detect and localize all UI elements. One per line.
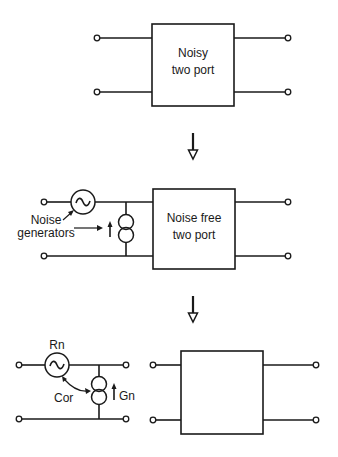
terminal-icon xyxy=(285,89,291,95)
box-label-line2: two port xyxy=(172,63,215,77)
terminal-icon xyxy=(150,417,156,423)
stage-noisy-two-port: Noisy two port xyxy=(94,24,291,106)
terminal-icon xyxy=(94,35,100,41)
down-arrow-icon xyxy=(189,296,198,322)
terminal-icon xyxy=(123,362,129,368)
terminal-icon xyxy=(41,199,47,205)
stage-noise-free-two-port: Noise free two port Noise generators xyxy=(17,189,290,269)
terminal-icon xyxy=(16,416,22,422)
terminal-icon xyxy=(123,416,129,422)
voltage-noise-source-icon xyxy=(45,353,69,377)
box-label-line1: Noisy xyxy=(178,46,208,60)
box-label-line1: Noise free xyxy=(167,211,222,225)
current-noise-source-icon xyxy=(119,215,134,243)
terminal-icon xyxy=(150,362,156,368)
current-direction-arrow-icon xyxy=(112,383,117,400)
terminal-icon xyxy=(16,362,22,368)
annotation-label-line1: Noise xyxy=(31,213,62,227)
box-label-line2: two port xyxy=(173,228,216,242)
terminal-icon xyxy=(285,253,291,259)
down-arrow-icon xyxy=(189,133,198,159)
noiseless-two-port-box xyxy=(181,351,263,434)
cor-label: Cor xyxy=(54,391,73,405)
terminal-icon xyxy=(285,199,291,205)
stage-noiseless-two-port xyxy=(150,351,319,434)
current-noise-source-icon xyxy=(92,377,107,405)
terminal-icon xyxy=(41,253,47,259)
current-direction-arrow-icon xyxy=(108,221,113,237)
gn-label: Gn xyxy=(119,389,135,403)
terminal-icon xyxy=(313,362,319,368)
voltage-noise-source-icon xyxy=(71,190,95,214)
stage-noise-network: Rn Gn Cor xyxy=(16,338,135,422)
terminal-icon xyxy=(313,417,319,423)
rn-label: Rn xyxy=(49,338,64,352)
annotation-label-line2: generators xyxy=(17,226,74,240)
terminal-icon xyxy=(285,35,291,41)
noise-two-port-diagram: Noisy two port xyxy=(0,0,338,457)
terminal-icon xyxy=(94,89,100,95)
